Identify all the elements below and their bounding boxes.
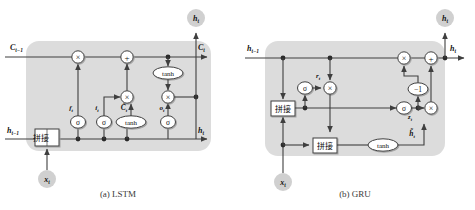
gru-update-activation: σ (402, 104, 406, 113)
gru-concat-upper-label: 拼接 (275, 104, 291, 114)
lstm-concat-label-1: 拼接 (33, 133, 49, 143)
gru-candidate-activation: tanh (377, 142, 390, 150)
lstm-input-gate: σ (97, 116, 112, 128)
gru-multiply-update-right: × (425, 102, 437, 114)
gru-caption: (b) GRU (339, 189, 371, 199)
lstm-tanh-cell: tanh (153, 67, 183, 79)
gru-mult-right-symbol: × (429, 104, 434, 113)
gru-add-symbol: + (428, 54, 433, 64)
gru-candidate-gate: tanh (368, 139, 398, 151)
lstm-output-gate: σ (161, 116, 176, 128)
gru-add-hidden: + (425, 52, 437, 64)
lstm-output-activation: σ (166, 118, 170, 127)
figure-root: 拼接 xt σ σ tanh σ (0, 0, 475, 210)
gru-one-minus-symbol: −1 (414, 85, 422, 94)
lstm-add-cell-symbol: + (124, 53, 129, 63)
lstm-forget-activation: σ (76, 118, 80, 127)
lstm-candidate-activation: tanh (125, 119, 138, 127)
lstm-forget-gate: σ (71, 116, 86, 128)
lstm-multiply-forget: × (72, 51, 84, 63)
gru-one-minus: −1 (408, 83, 428, 95)
lstm-tanh-cell-symbol: tanh (162, 70, 175, 78)
gru-multiply-reset: × (324, 82, 336, 94)
lstm-multiply-output: × (162, 91, 174, 103)
lstm-mult-output-symbol: × (166, 93, 171, 102)
lstm-multiply-input: × (121, 91, 133, 103)
lstm-caption: (a) LSTM (100, 189, 136, 199)
rnn-cell-diagram: 拼接 xt σ σ tanh σ (0, 0, 475, 210)
gru-mult-left-symbol: × (402, 54, 407, 63)
gru-reset-activation: σ (303, 84, 307, 93)
gru-concat-lower-label: 拼接 (317, 141, 333, 151)
gru-reset-gate: σ (298, 82, 313, 94)
lstm-add-cell: + (121, 51, 133, 63)
lstm-mult-input-symbol: × (125, 93, 130, 102)
gru-mult-reset-symbol: × (328, 84, 333, 93)
lstm-mult-forget-symbol: × (76, 53, 81, 62)
gru-multiply-update-left: × (398, 52, 410, 64)
lstm-input-activation: σ (102, 118, 106, 127)
lstm-candidate-gate: tanh (116, 116, 146, 128)
